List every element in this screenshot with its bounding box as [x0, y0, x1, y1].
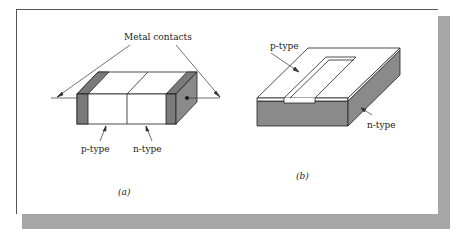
metal-contacts-label: Metal contacts: [124, 32, 192, 42]
n-type-label-a: n-type: [133, 144, 162, 154]
diagram-canvas: Metal contacts p-type n-type (a) p-type …: [0, 0, 459, 233]
p-type-label-b: p-type: [270, 41, 299, 51]
panel-b-device: [257, 48, 400, 126]
caption-b: (b): [296, 171, 309, 181]
panel-a-device: [77, 72, 197, 124]
n-type-label-b: n-type: [367, 120, 396, 130]
caption-a: (a): [118, 187, 131, 197]
contact-dot-icon: [185, 96, 189, 100]
p-type-label-a: p-type: [81, 144, 110, 154]
